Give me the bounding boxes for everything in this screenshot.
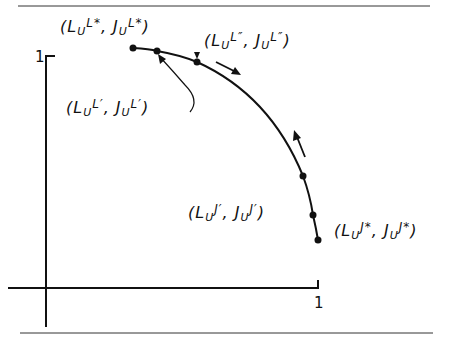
diagram-canvas: 1 1 (LUL*, JUL*) (LUL″, JUL″) (LUL′, JUL… <box>0 0 456 340</box>
y-axis <box>46 56 55 327</box>
point-l-star <box>130 45 137 52</box>
point-mid <box>300 173 307 180</box>
leader-l-prime <box>160 57 194 112</box>
y-axis-max-tick-label: 1 <box>35 48 45 66</box>
label-l-star: (LUL*, JUL*) <box>60 16 150 38</box>
label-l-double-prime: (LUL″, JUL″) <box>204 30 291 52</box>
label-j-prime: (LUJ′, JUJ′) <box>188 202 265 224</box>
direction-arrow-right <box>297 137 305 157</box>
label-j-star: (LUJ*, JUJ*) <box>334 220 418 242</box>
point-j-prime <box>310 212 317 219</box>
direction-arrow-right-head <box>293 130 301 141</box>
point-j-star <box>315 237 322 244</box>
point-l-double-prime <box>194 59 201 66</box>
point-l-prime <box>154 48 161 55</box>
pointer-l-double-prime <box>194 52 200 59</box>
label-l-prime: (LUL′, JUL′) <box>66 97 149 119</box>
x-axis-max-tick-label: 1 <box>314 294 324 312</box>
